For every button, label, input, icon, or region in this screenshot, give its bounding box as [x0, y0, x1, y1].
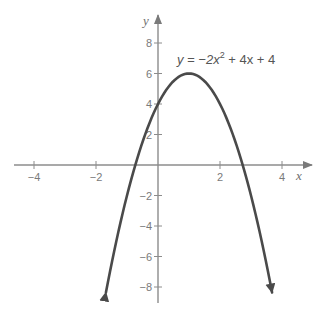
- y-tick-label: 8: [146, 37, 152, 49]
- equation-label: y = −2x2 + 4x + 4: [176, 50, 275, 67]
- x-axis-label: x: [295, 168, 302, 183]
- equation-prefix: y = −2x: [176, 52, 220, 67]
- x-tick-label: 4: [279, 171, 285, 183]
- x-tick-label: −4: [28, 171, 41, 183]
- y-tick-label: −8: [139, 281, 152, 293]
- parabola-chart: −4−224 8642−2−4−6−8 x y y = −2x2 + 4x + …: [0, 0, 325, 313]
- y-tick-label: 4: [146, 98, 152, 110]
- equation-suffix: + 4x + 4: [225, 52, 276, 67]
- y-tick-label: 6: [146, 68, 152, 80]
- y-axis-label: y: [141, 13, 149, 28]
- x-tick-label: 2: [217, 171, 223, 183]
- x-tick-label: −2: [90, 171, 103, 183]
- y-tick-label: −4: [139, 220, 152, 232]
- y-tick-label: −2: [139, 190, 152, 202]
- parabola-curve: [106, 74, 272, 293]
- y-tick-label: −6: [139, 251, 152, 263]
